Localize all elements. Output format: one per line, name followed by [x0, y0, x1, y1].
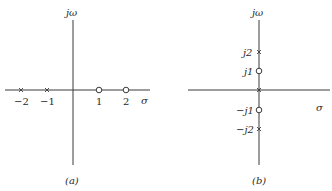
- tick-label-neg2: −2: [14, 96, 29, 107]
- caption-b: (b): [252, 175, 266, 186]
- zero-marker-j1: [256, 68, 262, 74]
- tick-label-j1: j1: [242, 66, 253, 77]
- tick-label-neg1: −1: [40, 96, 55, 107]
- tick-label-neg-j1: −j1: [236, 105, 254, 116]
- tick-label-j2: j2: [241, 47, 252, 58]
- panel-a: jω σ −2 −1 1 2 (a): [5, 7, 150, 186]
- tick-label-1: 1: [96, 96, 102, 107]
- pole-zero-diagrams: jω σ −2 −1 1 2 (a) jω σ: [0, 0, 332, 191]
- caption-a: (a): [65, 175, 79, 186]
- zero-marker-2: [123, 87, 129, 93]
- sigma-axis-label-b: σ: [316, 102, 324, 113]
- zero-marker-neg-j1: [256, 107, 262, 113]
- panel-b: jω σ j2 j1 −j1 −j2 (b): [188, 7, 330, 186]
- jw-axis-label-b: jω: [250, 7, 263, 18]
- sigma-axis-label-a: σ: [141, 95, 149, 106]
- zero-marker-1: [96, 87, 102, 93]
- tick-label-neg-j2: −j2: [236, 124, 254, 135]
- jw-axis-label-a: jω: [64, 7, 77, 18]
- tick-label-2: 2: [123, 96, 129, 107]
